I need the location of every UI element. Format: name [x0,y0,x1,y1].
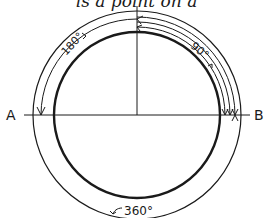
arc-90-middle [137,22,230,115]
arrowhead-90-top [137,25,142,31]
angle-label-360: 360° [124,204,153,218]
arc-90-outer [137,17,235,115]
point-label-b: B [254,107,264,123]
point-label-a: A [6,107,16,123]
circle-angle-diagram: 180° 90° 360° A B [0,0,273,218]
arrowhead-360 [110,208,122,214]
angle-label-90: 90° [188,39,211,61]
arc-90-inner [137,27,225,115]
